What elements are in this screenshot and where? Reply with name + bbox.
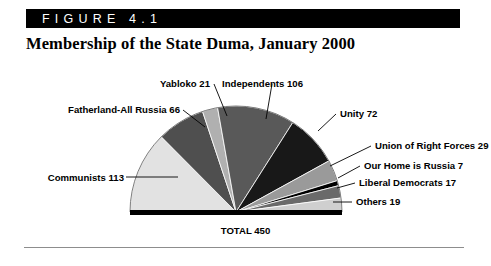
slice-label-independents: Independents 106 <box>222 79 303 89</box>
leader-line-our-home <box>338 166 360 178</box>
leader-line-liberal-democrats <box>337 183 355 188</box>
figure-page: FIGURE 4.1 Membership of the State Duma,… <box>0 0 491 266</box>
total-caption: TOTAL 450 <box>0 225 491 236</box>
slice-label-our-home: Our Home is Russia 7 <box>364 161 463 171</box>
slice-label-communists: Communists 113 <box>26 173 124 183</box>
slice-label-liberal-democrats: Liberal Democrats 17 <box>359 178 456 188</box>
slice-label-union-right-forces: Union of Right Forces 29 <box>375 141 489 151</box>
pie-baseline-bar <box>130 210 342 215</box>
slice-label-fatherland: Fatherland-All Russia 66 <box>20 105 180 115</box>
slice-label-unity: Unity 72 <box>340 109 377 119</box>
pie-slice-group <box>130 106 342 212</box>
slice-label-others: Others 19 <box>356 197 400 207</box>
slice-label-yabloko: Yabloko 21 <box>90 79 210 89</box>
leader-line-unity <box>318 114 336 131</box>
footer-rule <box>24 247 464 248</box>
